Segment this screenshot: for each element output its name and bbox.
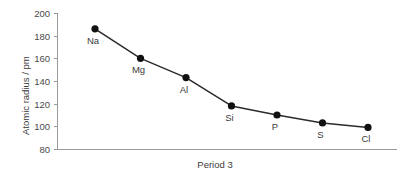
data-point-si <box>228 102 235 109</box>
data-point-label-mg: Mg <box>132 64 145 75</box>
data-point-mg <box>137 55 144 62</box>
y-tick-label: 160 <box>34 53 50 64</box>
data-point-label-cl: Cl <box>362 133 371 144</box>
y-axis-tick-labels: 200 180 160 140 120 100 80 <box>34 8 50 155</box>
y-axis-tick-marks <box>54 14 58 150</box>
data-point-p <box>273 111 280 118</box>
y-tick-label: 100 <box>34 121 50 132</box>
data-point-label-p: P <box>272 121 278 132</box>
data-point-cl <box>364 124 371 131</box>
y-tick-label: 80 <box>39 144 50 155</box>
data-point-label-al: Al <box>180 84 188 95</box>
y-tick-label: 120 <box>34 99 50 110</box>
y-tick-label: 180 <box>34 31 50 42</box>
y-tick-label: 200 <box>34 8 50 19</box>
data-point-s <box>319 119 326 126</box>
y-axis-title: Atomic radius / pm <box>20 56 31 135</box>
data-point-label-na: Na <box>87 35 100 46</box>
data-point-na <box>91 25 98 32</box>
y-tick-label: 140 <box>34 76 50 87</box>
data-point-label-s: S <box>317 129 323 140</box>
chart-screenshot: 200 180 160 140 120 100 80 Atomic radius… <box>0 0 404 180</box>
x-axis-title: Period 3 <box>197 159 232 170</box>
atomic-radius-line-chart: 200 180 160 140 120 100 80 Atomic radius… <box>0 0 404 180</box>
data-point-al <box>182 74 189 81</box>
data-point-label-si: Si <box>225 112 233 123</box>
